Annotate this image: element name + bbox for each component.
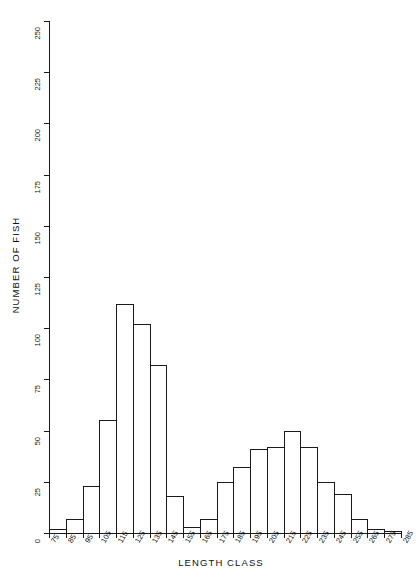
y-axis-title-text: NUMBER OF FISH: [10, 217, 21, 314]
x-axis-title-text: LENGTH CLASS: [178, 557, 264, 568]
y-tick: [44, 226, 49, 227]
histogram-bar: [49, 529, 67, 533]
histogram-bar: [367, 529, 385, 533]
y-tick-label: 0: [20, 528, 42, 538]
y-tick-label: 225: [20, 67, 42, 77]
y-tick: [44, 482, 49, 483]
y-tick: [44, 175, 49, 176]
y-tick: [44, 379, 49, 380]
x-tick-label-text: 285: [401, 529, 415, 544]
y-tick: [44, 72, 49, 73]
y-tick-label: 150: [20, 221, 42, 231]
x-axis-title: LENGTH CLASS: [0, 557, 416, 568]
y-tick-label: 75: [20, 374, 42, 384]
y-tick: [44, 21, 49, 22]
histogram-bar: [384, 531, 402, 533]
y-tick-label: 125: [20, 272, 42, 282]
histogram-bar: [250, 449, 268, 533]
histogram-bar: [351, 519, 368, 533]
histogram-bar: [116, 304, 134, 533]
y-tick-label: 50: [20, 426, 42, 436]
y-tick: [44, 328, 49, 329]
histogram-bar: [150, 365, 167, 533]
y-axis-title: NUMBER OF FISH: [8, 205, 22, 325]
histogram-bar: [300, 447, 318, 533]
y-tick-label-text: 100: [33, 334, 42, 347]
histogram-bar: [233, 467, 251, 533]
y-tick-label-text: 125: [33, 283, 42, 296]
histogram-bar: [99, 420, 117, 533]
x-tick-label-text: 85: [66, 533, 78, 545]
chart-canvas: 0255075100125150175200225250 75859510511…: [0, 0, 416, 584]
y-axis-line: [49, 21, 50, 534]
y-tick-label: 25: [20, 477, 42, 487]
histogram-bar: [267, 447, 285, 533]
y-tick-label-text: 175: [33, 181, 42, 194]
y-tick: [44, 277, 49, 278]
histogram-bar: [166, 496, 184, 533]
histogram-bar: [284, 431, 301, 533]
y-tick-label: 100: [20, 323, 42, 333]
histogram-bar: [217, 482, 234, 533]
y-tick-label-text: 225: [33, 78, 42, 91]
y-tick-label: 250: [20, 16, 42, 26]
y-tick: [44, 123, 49, 124]
histogram-bar: [83, 486, 100, 533]
histogram-bar: [133, 324, 151, 533]
y-tick-label-text: 75: [33, 385, 42, 393]
y-tick: [44, 431, 49, 432]
histogram-bar: [334, 494, 352, 533]
y-tick-label-text: 150: [33, 232, 42, 245]
histogram-bar: [66, 519, 84, 533]
y-tick-label: 175: [20, 170, 42, 180]
histogram-bar: [200, 519, 218, 533]
y-tick-label-text: 250: [33, 27, 42, 40]
y-tick-label: 200: [20, 118, 42, 128]
x-tick-label-text: 75: [49, 533, 61, 545]
y-tick-label-text: 25: [33, 488, 42, 496]
y-tick-label-text: 50: [33, 437, 42, 445]
histogram-bar: [317, 482, 335, 533]
y-tick-label-text: 0: [33, 539, 42, 543]
histogram-bar: [183, 527, 201, 533]
y-tick-label-text: 200: [33, 129, 42, 142]
